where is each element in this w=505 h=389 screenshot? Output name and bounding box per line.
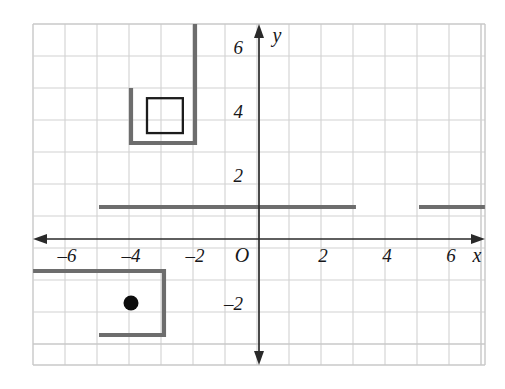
x-axis-arrow-left [33, 234, 47, 244]
y-tick-label-4: 4 [234, 101, 244, 122]
origin-label: O [235, 244, 249, 266]
y-tick-label-2: 2 [234, 165, 244, 186]
x-tick-label-2: 2 [318, 245, 328, 266]
coordinate-plane-svg: –6–4–2246642–2Oyx [0, 0, 505, 389]
x-axis-label: x [472, 244, 482, 266]
coordinate-plane-figure: –6–4–2246642–2Oyx [0, 0, 505, 389]
y-axis-arrow-up [254, 24, 264, 38]
x-tick-label--6: –6 [57, 245, 78, 266]
x-tick-label--4: –4 [121, 245, 142, 266]
x-tick-label-6: 6 [446, 245, 456, 266]
x-axis-arrow-right [471, 234, 485, 244]
y-axis-arrow-down [254, 351, 264, 365]
x-tick-label-4: 4 [382, 245, 392, 266]
y-axis-label: y [271, 24, 282, 47]
x-tick-label--2: –2 [185, 245, 206, 266]
inner-square [147, 98, 183, 133]
u-shape-upper-left [131, 24, 195, 143]
c-shape-lower-left [33, 271, 164, 335]
y-tick-label--2: –2 [223, 293, 244, 314]
y-tick-label-6: 6 [234, 37, 244, 58]
plot-point [124, 296, 139, 311]
